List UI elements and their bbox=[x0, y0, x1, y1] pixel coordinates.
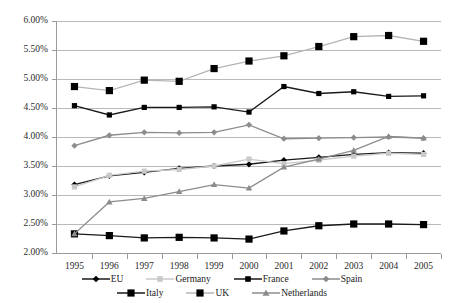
y-axis-tick bbox=[52, 108, 57, 109]
y-axis-tick bbox=[52, 137, 57, 138]
x-axis-tick bbox=[127, 254, 128, 259]
x-axis-tick bbox=[441, 254, 442, 259]
legend-item-germany[interactable]: Germany bbox=[145, 273, 210, 285]
chart-legend: EUGermanyFranceSpainItalyUKNetherlands bbox=[0, 272, 465, 300]
y-axis-tick-label: 2.50% bbox=[0, 219, 48, 229]
legend-row: EUGermanyFranceSpain bbox=[0, 272, 465, 286]
gridline bbox=[57, 195, 441, 196]
legend-label: France bbox=[263, 274, 289, 284]
y-axis-tick bbox=[52, 224, 57, 225]
gridline bbox=[57, 108, 441, 109]
y-axis-tick bbox=[52, 195, 57, 196]
x-axis-tick bbox=[162, 254, 163, 259]
plot-area bbox=[57, 21, 441, 253]
legend-row: ItalyUKNetherlands bbox=[0, 286, 465, 300]
legend-label: Italy bbox=[146, 288, 163, 298]
legend-marker-icon bbox=[116, 287, 146, 299]
x-axis-tick bbox=[371, 254, 372, 259]
x-axis-tick bbox=[266, 254, 267, 259]
legend-item-netherlands[interactable]: Netherlands bbox=[251, 287, 327, 299]
y-axis-tick-label: 3.50% bbox=[0, 161, 48, 171]
legend-marker-icon bbox=[311, 273, 341, 285]
y-axis-tick-label: 5.50% bbox=[0, 45, 48, 55]
legend-marker-icon bbox=[251, 287, 281, 299]
legend-label: Spain bbox=[341, 274, 363, 284]
gridline bbox=[57, 166, 441, 167]
legend-item-italy[interactable]: Italy bbox=[116, 287, 163, 299]
legend-label: EU bbox=[111, 274, 124, 284]
legend-label: Germany bbox=[175, 274, 210, 284]
y-axis-tick-label: 2.00% bbox=[0, 248, 48, 258]
x-axis-tick bbox=[92, 254, 93, 259]
gridline bbox=[57, 137, 441, 138]
x-axis-tick-label: 2005 bbox=[402, 261, 446, 271]
y-axis-tick bbox=[52, 21, 57, 22]
y-axis-tick bbox=[52, 50, 57, 51]
x-axis bbox=[57, 253, 441, 254]
x-axis-tick bbox=[232, 254, 233, 259]
legend-item-france[interactable]: France bbox=[233, 273, 289, 285]
legend-item-spain[interactable]: Spain bbox=[311, 273, 363, 285]
legend-item-uk[interactable]: UK bbox=[185, 287, 229, 299]
x-axis-tick bbox=[336, 254, 337, 259]
chart-title bbox=[60, 0, 400, 4]
legend-item-eu[interactable]: EU bbox=[81, 273, 124, 285]
y-axis-tick bbox=[52, 166, 57, 167]
gridline bbox=[57, 79, 441, 80]
legend-marker-icon bbox=[233, 273, 263, 285]
gridline bbox=[57, 50, 441, 51]
line-chart: 6.00%5.50%5.00%4.50%4.00%3.50%3.00%2.50%… bbox=[0, 0, 465, 303]
legend-marker-icon bbox=[145, 273, 175, 285]
x-axis-tick bbox=[301, 254, 302, 259]
legend-marker-icon bbox=[81, 273, 111, 285]
legend-marker-icon bbox=[185, 287, 215, 299]
gridline bbox=[57, 21, 441, 22]
legend-label: UK bbox=[215, 288, 229, 298]
x-axis-tick bbox=[197, 254, 198, 259]
y-axis-tick bbox=[52, 253, 57, 254]
y-axis-tick bbox=[52, 79, 57, 80]
y-axis-tick-label: 5.00% bbox=[0, 74, 48, 84]
y-axis-tick-label: 4.50% bbox=[0, 103, 48, 113]
y-axis-tick-label: 6.00% bbox=[0, 16, 48, 26]
legend-label: Netherlands bbox=[281, 288, 327, 298]
x-axis-tick bbox=[406, 254, 407, 259]
gridline bbox=[57, 224, 441, 225]
y-axis-tick-label: 4.00% bbox=[0, 132, 48, 142]
y-axis-tick-label: 3.00% bbox=[0, 190, 48, 200]
